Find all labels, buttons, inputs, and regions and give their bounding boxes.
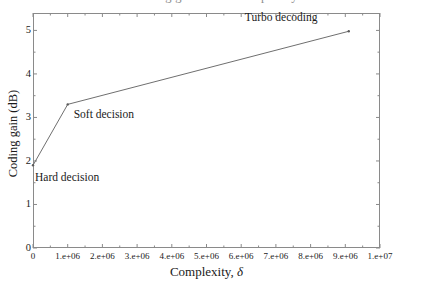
x-axis-title: Complexity, δ — [33, 264, 380, 280]
x-tick-label: 8.e+06 — [298, 251, 323, 262]
data-series-line — [33, 31, 349, 165]
annotation-hard-decision: Hard decision — [35, 171, 99, 183]
x-tick-label: 4.e+06 — [159, 251, 184, 262]
annotation-soft-decision: Soft decision — [74, 108, 134, 120]
x-tick-label: 3.e+06 — [125, 251, 150, 262]
x-tick-label: 0 — [31, 251, 36, 262]
annotation-turbo-decoding: Turbo decoding — [245, 11, 318, 23]
y-tick-label: 5 — [9, 25, 31, 35]
x-tick-label: 6.e+06 — [229, 251, 254, 262]
data-point-markers — [32, 30, 350, 166]
x-tick-label: 7.e+06 — [263, 251, 288, 262]
x-tick-label: 9.e+06 — [333, 251, 358, 262]
x-tick-label: 5.e+06 — [194, 251, 219, 262]
x-tick-label: 1.e+07 — [368, 251, 393, 262]
plot-canvas — [0, 0, 431, 284]
axis-ticks — [33, 13, 380, 248]
y-axis-title: Coding gain (dB) — [6, 59, 21, 209]
x-axis-title-text: Complexity, — [170, 264, 234, 279]
chart-figure: Coding gain versus complexity 012345 Cod… — [0, 0, 431, 284]
x-tick-label: 2.e+06 — [90, 251, 115, 262]
x-axis-tick-labels: 01.e+062.e+063.e+064.e+065.e+066.e+067.e… — [0, 251, 431, 265]
delta-symbol: δ — [237, 264, 243, 279]
x-tick-label: 1.e+06 — [55, 251, 80, 262]
